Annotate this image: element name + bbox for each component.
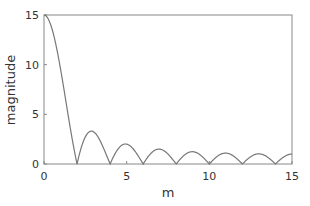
y-tick-label: 15 [25, 9, 39, 22]
y-tick-label: 0 [32, 158, 39, 171]
chart: 051015 051015 m magnitude [0, 0, 310, 206]
x-tick-label: 15 [285, 170, 299, 183]
plot-frame [44, 15, 292, 164]
x-tick-label: 10 [202, 170, 216, 183]
x-tick-label: 0 [41, 170, 48, 183]
x-axis-label: m [162, 185, 175, 200]
magnitude-curve [44, 15, 292, 164]
y-tick-label: 10 [25, 59, 39, 72]
plot-border [44, 15, 292, 164]
y-tick-label: 5 [32, 108, 39, 121]
x-tick-label: 5 [123, 170, 130, 183]
y-axis-label: magnitude [3, 55, 18, 125]
